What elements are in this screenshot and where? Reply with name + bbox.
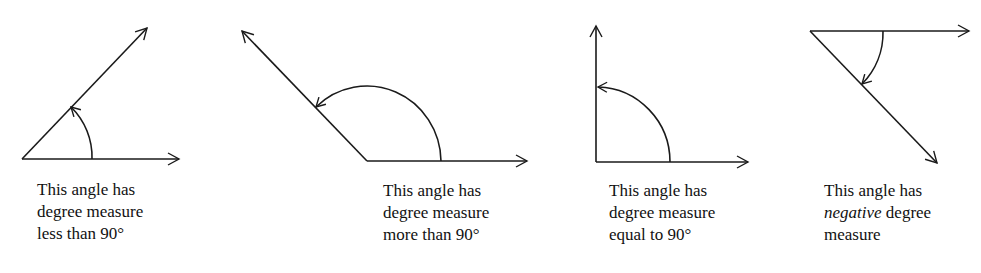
angle-arc-arrow-icon bbox=[862, 31, 883, 84]
caption-obtuse: This angle has degree measure more than … bbox=[383, 180, 489, 246]
caption-line: more than 90° bbox=[383, 224, 489, 246]
caption-line: This angle has bbox=[824, 180, 931, 202]
caption-line: less than 90° bbox=[37, 223, 143, 245]
right-angle-diagram bbox=[596, 26, 748, 162]
terminal-ray bbox=[242, 31, 367, 161]
caption-line: degree measure bbox=[37, 201, 143, 223]
angle-arc-arrow-icon bbox=[598, 87, 670, 162]
caption-line: degree measure bbox=[383, 202, 489, 224]
acute-angle-diagram bbox=[22, 28, 179, 159]
caption-negative: This angle has negative degree measure bbox=[824, 180, 931, 246]
caption-line: equal to 90° bbox=[609, 224, 715, 246]
caption-line: negative degree bbox=[824, 202, 931, 224]
caption-line: measure bbox=[824, 224, 931, 246]
caption-line: degree measure bbox=[609, 202, 715, 224]
caption-line: This angle has bbox=[383, 180, 489, 202]
caption-text: degree bbox=[886, 203, 931, 222]
caption-line: This angle has bbox=[37, 179, 143, 201]
terminal-ray bbox=[810, 31, 937, 163]
angle-arc-arrow-icon bbox=[316, 86, 441, 161]
caption-right: This angle has degree measure equal to 9… bbox=[609, 180, 715, 246]
negative-angle-diagram bbox=[810, 31, 969, 163]
caption-acute: This angle has degree measure less than … bbox=[37, 179, 143, 245]
angle-arc-arrow-icon bbox=[71, 107, 92, 159]
terminal-ray bbox=[22, 28, 147, 159]
caption-emphasis: negative bbox=[824, 203, 882, 222]
obtuse-angle-diagram bbox=[242, 31, 527, 161]
caption-line: This angle has bbox=[609, 180, 715, 202]
